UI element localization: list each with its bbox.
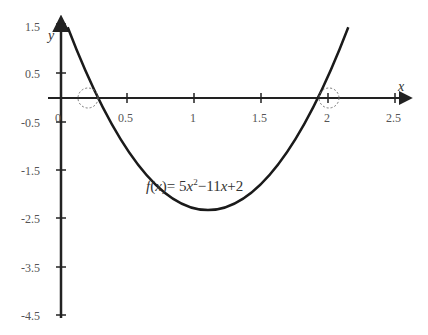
y-tick-label: -0.5 bbox=[21, 116, 40, 130]
x-axis-label: x bbox=[397, 79, 405, 94]
x-tick-label: 0 bbox=[55, 111, 61, 125]
y-tick-label: 0.5 bbox=[25, 67, 40, 81]
y-tick-label: -2.5 bbox=[21, 212, 40, 226]
x-tick-label: 1 bbox=[190, 111, 196, 125]
y-tick-label: -1.5 bbox=[21, 164, 40, 178]
x-tick-label: 2.5 bbox=[386, 111, 401, 125]
y-tick-label: 1.5 bbox=[25, 20, 40, 34]
function-formula: f(x)= 5x2−11x+2 bbox=[146, 177, 243, 195]
x-tick-label: 1.5 bbox=[252, 111, 267, 125]
y-tick-label: -4.5 bbox=[21, 309, 40, 323]
x-tick-label: 0.5 bbox=[118, 111, 133, 125]
x-tick-label: 2 bbox=[324, 111, 330, 125]
function-plot: 0 0.5 1 1.5 2 2.5 1.5 0.5 -0.5 -1.5 -2.5… bbox=[0, 0, 428, 335]
y-axis-label: y bbox=[46, 28, 55, 43]
y-tick-label: -3.5 bbox=[21, 261, 40, 275]
